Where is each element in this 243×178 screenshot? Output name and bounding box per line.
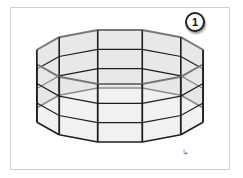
step-number-badge: 1 xyxy=(185,12,205,32)
prism-wireframe xyxy=(0,0,243,178)
mouse-pointer-icon: ↳ xyxy=(182,148,189,157)
